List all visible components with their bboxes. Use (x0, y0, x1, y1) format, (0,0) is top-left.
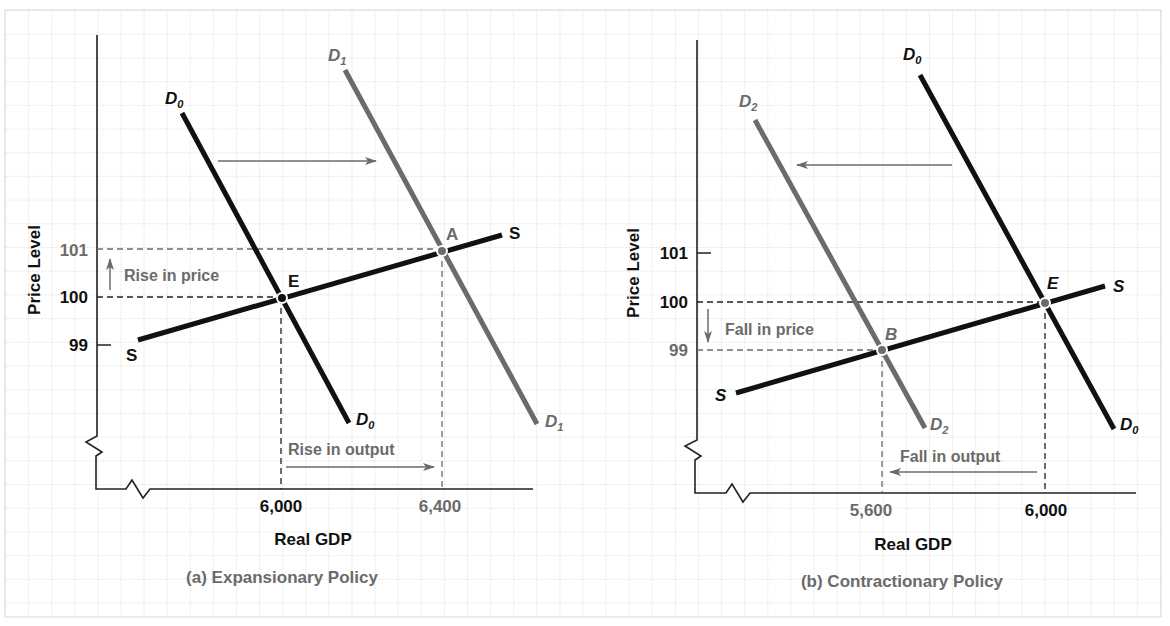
panel-a-xtick-6400: 6,400 (419, 497, 462, 516)
panel-b-ytick-100: 100 (660, 293, 688, 312)
panel-a-ylabel: Price Level (25, 225, 44, 315)
panel-a-title: (a) Expansionary Policy (186, 568, 378, 587)
panel-a-label-point-a: A (446, 225, 458, 244)
panel-b-xtick-6000: 6,000 (1025, 501, 1068, 520)
panel-a-rise-output-label: Rise in output (288, 441, 395, 458)
panel-b-ytick-101: 101 (660, 244, 688, 263)
panel-b-xlabel: Real GDP (874, 535, 951, 554)
panel-a-label-s-end: S (509, 224, 520, 243)
figure: 101 100 99 6,000 6,400 Price Level Real … (0, 0, 1170, 626)
panel-b-ylabel: Price Level (624, 228, 643, 318)
panel-b-ytick-99: 99 (669, 341, 688, 360)
panel-a-label-s-start: S (126, 346, 137, 365)
panel-a-point-e (277, 293, 287, 303)
panel-a-xlabel: Real GDP (274, 530, 351, 549)
panel-a-xtick-6000: 6,000 (260, 497, 303, 516)
panel-a-ytick-100: 100 (60, 288, 88, 307)
panel-a-ytick-99: 99 (69, 336, 88, 355)
chart-canvas: 101 100 99 6,000 6,400 Price Level Real … (0, 0, 1170, 626)
panel-b-label-s-start: S (715, 386, 727, 405)
panel-b-point-b (877, 345, 887, 355)
panel-b-point-e (1040, 298, 1050, 308)
panel-b-fall-price-label: Fall in price (725, 321, 814, 338)
panel-b-xtick-5600: 5,600 (850, 501, 893, 520)
panel-b-label-point-e: E (1047, 274, 1059, 293)
panel-b-fall-output-label: Fall in output (900, 448, 1001, 465)
panel-a-ytick-101: 101 (60, 241, 88, 260)
panel-a-rise-price-label: Rise in price (124, 267, 219, 284)
panel-a-label-point-e: E (288, 272, 299, 291)
panel-b-label-point-b: B (885, 325, 897, 344)
panel-b-label-s-end: S (1113, 277, 1125, 296)
panel-b-title: (b) Contractionary Policy (801, 572, 1004, 591)
panel-a-point-a (437, 246, 447, 256)
